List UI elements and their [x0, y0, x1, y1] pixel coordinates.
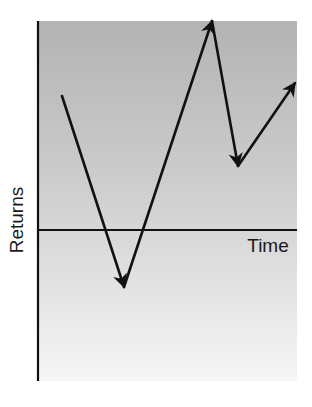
x-axis-label: Time: [247, 235, 289, 256]
y-axis-label: Returns: [6, 187, 27, 254]
returns-time-diagram: Time Returns: [0, 0, 312, 407]
plot-background: [38, 21, 297, 381]
